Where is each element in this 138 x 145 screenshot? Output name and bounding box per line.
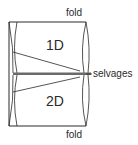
selvages-label: selvages [93,69,132,79]
left-inner-curve-bottom [9,75,13,126]
right-curve-top [86,22,89,73]
panel-1d-label: 1D [46,38,64,52]
right-curve-bottom-2 [82,75,86,126]
fold-label-top: fold [66,8,82,18]
right-curve-top-2 [82,22,86,73]
left-inner-curve-top [9,22,13,73]
left-inner-curve-bottom-2 [15,75,18,126]
diagonal-bottom [13,77,80,92]
diagonal-top [13,52,80,71]
fold-label-bottom: fold [66,130,82,140]
selvage-band [13,73,91,76]
left-inner-curve-top-2 [15,22,18,73]
right-curve-bottom [86,75,89,126]
panel-2d-label: 2D [46,94,64,108]
